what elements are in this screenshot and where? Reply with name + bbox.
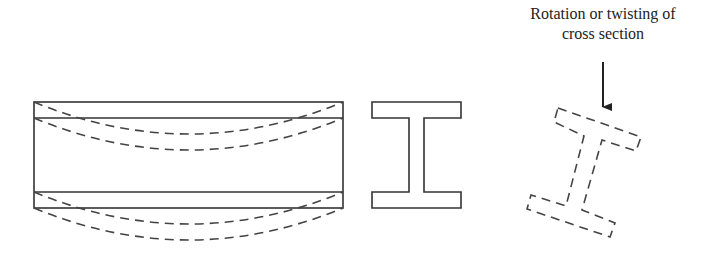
original-cross-section <box>372 102 461 208</box>
diagram-canvas <box>0 0 724 256</box>
beam-side-view <box>34 102 343 240</box>
twisted-cross-section <box>527 108 641 237</box>
